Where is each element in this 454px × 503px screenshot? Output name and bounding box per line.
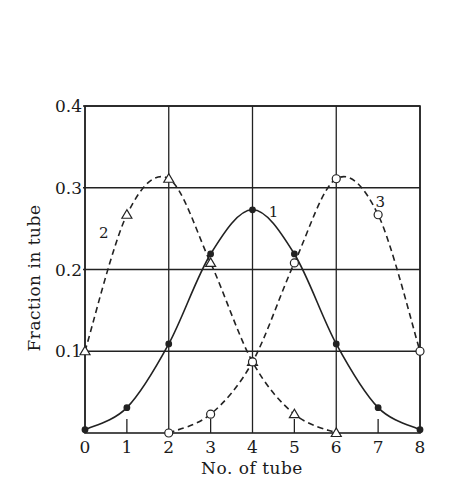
plot-grid — [83, 106, 420, 433]
x-tick-label: 3 — [205, 437, 216, 457]
x-tick-label: 7 — [373, 437, 384, 457]
y-tick-label: 0.3 — [55, 178, 82, 198]
data-point-filled-circle — [123, 404, 130, 411]
x-tick-label: 4 — [247, 437, 258, 457]
data-point-filled-circle — [165, 340, 172, 347]
x-tick-label: 1 — [121, 437, 132, 457]
x-axis-label: No. of tube — [201, 458, 303, 478]
plot-labels: 0123456780.10.20.30.4123 — [55, 96, 425, 457]
data-point-filled-circle — [375, 404, 382, 411]
data-point-filled-circle — [291, 251, 298, 258]
data-point-open-triangle — [122, 210, 132, 219]
data-point-open-circle — [207, 410, 215, 418]
y-tick-label: 0.4 — [55, 96, 82, 116]
data-point-open-circle — [249, 358, 257, 366]
curve-2 — [85, 177, 336, 433]
curve-label-1: 1 — [269, 203, 279, 221]
y-axis-label: Fraction in tube — [24, 205, 44, 352]
data-point-filled-circle — [333, 340, 340, 347]
y-tick-label: 0.1 — [55, 341, 82, 361]
x-tick-label: 6 — [331, 437, 342, 457]
data-point-filled-circle — [249, 206, 256, 213]
x-tick-label: 5 — [289, 437, 300, 457]
data-point-open-triangle — [289, 409, 299, 418]
y-tick-label: 0.2 — [55, 260, 82, 280]
data-point-filled-circle — [417, 426, 424, 433]
data-point-open-circle — [374, 211, 382, 219]
data-point-open-circle — [332, 175, 340, 183]
x-tick-label: 0 — [80, 437, 91, 457]
data-point-filled-circle — [207, 251, 214, 258]
data-point-filled-circle — [82, 426, 89, 433]
data-point-open-circle — [165, 429, 173, 437]
x-tick-label: 8 — [415, 437, 426, 457]
data-point-open-circle — [416, 347, 424, 355]
chart: 0123456780.10.20.30.4123 No. of tube Fra… — [0, 0, 454, 503]
x-tick-label: 2 — [163, 437, 174, 457]
curve-label-3: 3 — [375, 193, 385, 211]
curve-label-2: 2 — [99, 224, 109, 242]
data-point-open-circle — [290, 259, 298, 267]
